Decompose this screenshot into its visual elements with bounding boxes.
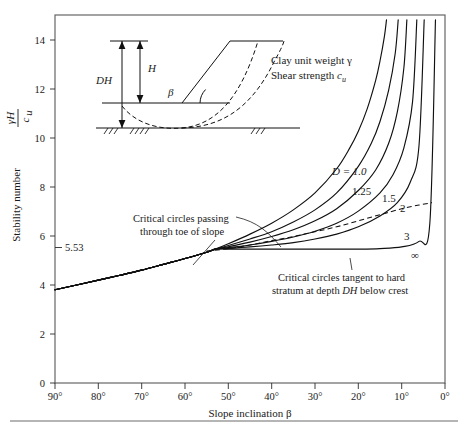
toe-circle-annotation: Critical circles passing through toe of … <box>133 213 281 265</box>
y-tick-label: 4 <box>40 280 46 291</box>
tangent-note-line1: Critical circles tangent to hard <box>278 272 406 283</box>
x-axis: 90° 80° 70° 60° 50° 40° 30° 20° 10° 0° <box>48 383 450 402</box>
x-tick-label: 20° <box>351 391 366 402</box>
inset-label-H: H <box>147 62 157 74</box>
inset-failure-circle-shallow <box>122 41 258 128</box>
chart-curve <box>55 20 435 290</box>
inset-label-beta: β <box>167 86 174 98</box>
curve-label-d2: 2 <box>400 202 406 214</box>
curve-label-d3: 3 <box>404 230 410 242</box>
curve-layer <box>55 20 435 290</box>
x-tick-label: 0° <box>440 391 449 402</box>
inset-shear-prefix: Shear strength <box>271 69 337 81</box>
inset-dimension-H: H <box>137 41 157 103</box>
curve-label-d125: 1.25 <box>352 185 372 197</box>
y-tick-label: 14 <box>35 35 46 46</box>
y-axis-title: Stability number <box>10 168 22 242</box>
y-axis-title-fraction: γH c u <box>4 109 34 127</box>
y-axis: 0 2 4 6 8 10 12 14 <box>35 35 56 389</box>
tangent-note-part-c: below crest <box>357 285 408 296</box>
curve-label-d15: 1.5 <box>382 192 396 204</box>
y-tick-label: 2 <box>40 329 45 340</box>
tangent-note-part-dh: DH <box>341 285 359 296</box>
inset-hatching <box>104 128 265 134</box>
inset-label-DH: DH <box>95 74 113 86</box>
y-axis-denominator-subscript: u <box>22 110 34 116</box>
y-tick-label: 8 <box>40 182 45 193</box>
x-tick-label: 30° <box>308 391 323 402</box>
x-tick-label: 10° <box>394 391 409 402</box>
x-axis-title: Slope inclination β <box>208 407 292 419</box>
y-axis-numerator: γH <box>4 111 16 124</box>
y-tick-label: 0 <box>40 378 45 389</box>
tangent-circle-annotation: Critical circles tangent to hard stratum… <box>272 258 408 296</box>
curve-label-d1: D = 1.0 <box>331 165 367 177</box>
curve-label-dinf: ∞ <box>411 249 419 261</box>
tangent-note-line2: stratum at depth DH below crest <box>272 285 408 296</box>
y-tick-label: 12 <box>35 84 46 95</box>
x-tick-label: 80° <box>91 391 106 402</box>
inset-text-shear-strength: Shear strength cu <box>271 69 346 84</box>
inset-slope-diagram: DH H β Clay unit weight γ Shear strength… <box>95 41 352 134</box>
stability-number-553-annotation: 5.53 <box>55 242 83 253</box>
inset-angle-beta: β <box>167 86 206 103</box>
x-tick-label: 60° <box>178 391 193 402</box>
inset-shear-sub: u <box>342 75 346 84</box>
inset-failure-circle-deep <box>182 41 284 128</box>
inset-text-unit-weight: Clay unit weight γ <box>271 54 352 66</box>
value-553-label: 5.53 <box>65 242 83 253</box>
x-tick-label: 70° <box>134 391 149 402</box>
tangent-note-part-a: stratum at depth <box>272 285 342 296</box>
x-tick-label: 90° <box>48 391 63 402</box>
x-tick-label: 40° <box>264 391 279 402</box>
y-axis-denominator: c <box>19 117 31 122</box>
y-tick-label: 10 <box>35 133 46 144</box>
x-tick-label: 50° <box>221 391 236 402</box>
toe-note-line1: Critical circles passing <box>133 213 229 224</box>
figure-container: 0 2 4 6 8 10 12 14 5.53 Stability number… <box>0 0 468 430</box>
y-axis-title-prefix: Stability number <box>10 168 22 242</box>
svg-text:Stability number: Stability number <box>10 168 22 242</box>
toe-note-line2: through toe of slope <box>140 226 225 237</box>
y-tick-label: 6 <box>40 231 45 242</box>
